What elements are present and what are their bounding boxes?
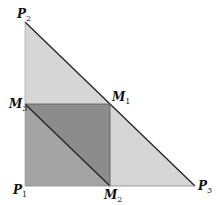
triangle-diagram: P2 M3 M1 P1 M2 P3 [0,0,219,205]
label-p3: P3 [197,179,212,195]
label-p2: P2 [16,7,31,23]
label-m1: M1 [111,90,130,106]
label-m3: M3 [8,97,27,113]
label-m2: M2 [103,188,122,204]
